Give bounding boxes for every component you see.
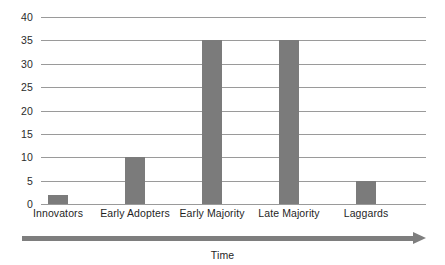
time-arrow: [22, 232, 426, 245]
y-axis-tick-label: 35: [21, 35, 33, 45]
y-axis-tick-label: 25: [21, 82, 33, 92]
chart-canvas: 0510152025303540 InnovatorsEarly Adopter…: [0, 0, 445, 265]
gridline: [41, 87, 426, 88]
plot-area: [41, 17, 426, 204]
bar: [125, 157, 145, 204]
y-axis-tick-label: 20: [21, 106, 33, 116]
gridline: [41, 111, 426, 112]
x-axis-title: Time: [0, 249, 445, 261]
y-axis-tick-label: 30: [21, 59, 33, 69]
gridline: [41, 134, 426, 135]
arrow-shaft: [22, 236, 414, 241]
gridline: [41, 17, 426, 18]
y-axis: 0510152025303540: [0, 17, 33, 204]
y-axis-tick-label: 40: [21, 12, 33, 22]
gridline: [41, 40, 426, 41]
y-axis-tick-label: 10: [21, 152, 33, 162]
bar: [356, 181, 376, 204]
y-axis-tick-label: 5: [27, 176, 33, 186]
gridline: [41, 157, 426, 158]
gridline: [41, 64, 426, 65]
arrow-head-icon: [413, 232, 426, 244]
bar: [202, 40, 222, 204]
bar: [279, 40, 299, 204]
gridline: [41, 204, 426, 205]
x-axis-tick-label: Laggards: [316, 206, 416, 220]
x-axis-category-labels: InnovatorsEarly AdoptersEarly MajorityLa…: [0, 206, 445, 222]
bar: [48, 195, 68, 204]
y-axis-tick-label: 15: [21, 129, 33, 139]
